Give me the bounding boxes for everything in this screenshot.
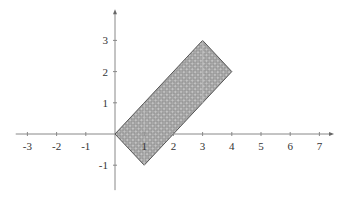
x-tick-label: 1 [141,140,147,152]
y-tick-label: 1 [103,97,109,109]
x-tick-label: 7 [317,140,323,152]
x-axis-arrow-icon [329,132,334,136]
x-tick-label: -3 [23,140,33,152]
x-tick-label: 3 [200,140,206,152]
y-tick-label: 2 [103,66,109,78]
y-axis-arrow-icon [113,9,117,14]
x-tick-label: 2 [171,140,177,152]
x-tick-label: 6 [287,140,293,152]
x-tick-label: 4 [229,140,235,152]
x-tick-label: 5 [258,140,264,152]
x-tick-label: -2 [52,140,61,152]
y-tick-label: 3 [103,34,109,46]
y-tick-label: -1 [99,159,108,171]
coordinate-plot: -3-2-11234567 -1123 [0,0,344,199]
x-tick-label: -1 [81,140,90,152]
y-axis-ticks: -1123 [99,34,117,171]
